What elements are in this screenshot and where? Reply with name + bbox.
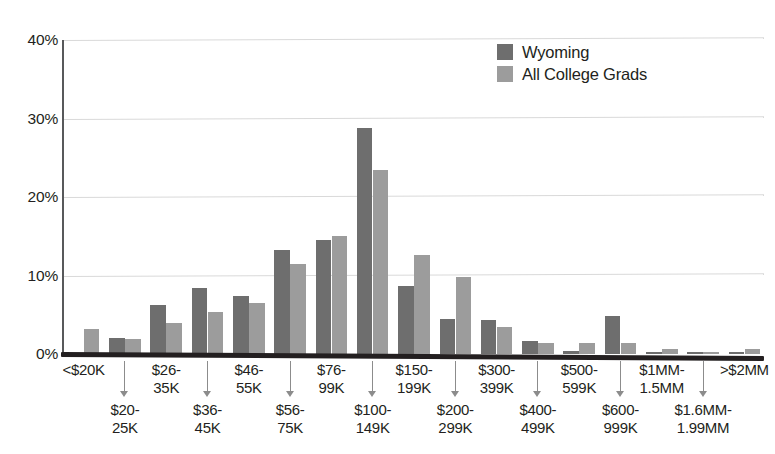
bar-all-college-grads	[414, 255, 430, 354]
bar-group	[646, 40, 678, 354]
bar-all-college-grads	[497, 327, 513, 354]
bar-all-college-grads	[703, 352, 719, 354]
y-axis-line	[62, 40, 64, 355]
bar-group	[729, 40, 761, 354]
y-axis-tick-label: 10%	[2, 268, 58, 284]
x-axis-category-label: $600- 999K	[573, 401, 667, 436]
bar-wyoming	[150, 305, 166, 354]
bar-group	[605, 40, 637, 354]
bar-group	[357, 40, 389, 354]
bar-all-college-grads	[621, 343, 637, 354]
bar-group	[233, 40, 265, 354]
bar-all-college-grads	[166, 323, 182, 354]
x-axis-category-label: $100- 149K	[326, 401, 420, 436]
y-axis-tick-label: 40%	[2, 32, 58, 48]
x-axis-category-label: $26- 35K	[119, 361, 213, 396]
x-axis-category-label: $150- 199K	[367, 361, 461, 396]
bar-group	[274, 40, 306, 354]
bar-wyoming	[398, 286, 414, 354]
bar-group	[687, 40, 719, 354]
bar-all-college-grads	[208, 312, 224, 354]
plot-area	[62, 40, 764, 354]
bar-wyoming	[233, 296, 249, 354]
bar-wyoming	[192, 288, 208, 354]
bar-group	[398, 40, 430, 354]
bar-wyoming	[357, 128, 373, 354]
bar-group	[150, 40, 182, 354]
y-axis-tick-label: 30%	[2, 111, 58, 127]
legend-swatch-icon	[497, 66, 513, 82]
bar-wyoming	[646, 352, 662, 354]
bar-group	[192, 40, 224, 354]
bar-all-college-grads	[456, 277, 472, 354]
legend-swatch-icon	[497, 44, 513, 60]
bar-group	[440, 40, 472, 354]
x-axis-category-label: $400- 499K	[491, 401, 585, 436]
bar-group	[522, 40, 554, 354]
bar-all-college-grads	[745, 349, 761, 354]
bar-all-college-grads	[579, 343, 595, 354]
bar-all-college-grads	[290, 264, 306, 354]
bar-group	[316, 40, 348, 354]
legend-item: All College Grads	[497, 66, 647, 83]
bar-group	[563, 40, 595, 354]
bar-wyoming	[316, 240, 332, 354]
x-axis-category-label: $1MM- 1.5MM	[615, 361, 709, 396]
x-axis-category-labels: <$20K$20- 25K$26- 35K$36- 45K$46- 55K$56…	[0, 357, 775, 454]
x-axis-category-label: $36- 45K	[161, 401, 255, 436]
bar-all-college-grads	[84, 329, 100, 354]
bar-wyoming	[563, 351, 579, 354]
bar-wyoming	[729, 352, 745, 354]
legend-label: Wyoming	[522, 44, 589, 61]
x-axis-category-label: $46- 55K	[202, 361, 296, 396]
bar-chart: 40%30%20%10%0% <$20K$20- 25K$26- 35K$36-…	[0, 0, 775, 454]
bar-series-container	[62, 40, 764, 354]
bar-wyoming	[605, 316, 621, 354]
bar-all-college-grads	[249, 303, 265, 354]
bar-wyoming	[522, 341, 538, 354]
bar-all-college-grads	[538, 343, 554, 354]
x-axis-category-label: $20- 25K	[78, 401, 172, 436]
bar-all-college-grads	[332, 236, 348, 354]
x-axis-category-label: >$2MM	[697, 361, 775, 379]
bar-all-college-grads	[373, 170, 389, 354]
legend-label: All College Grads	[522, 66, 647, 83]
bar-all-college-grads	[662, 349, 678, 354]
bar-group	[481, 40, 513, 354]
x-axis-category-label: $76- 99K	[284, 361, 378, 396]
x-axis-category-label: $300- 399K	[450, 361, 544, 396]
x-axis-category-label: $500- 599K	[532, 361, 626, 396]
legend-item: Wyoming	[497, 44, 647, 61]
y-axis-tick-label: 20%	[2, 189, 58, 205]
x-axis-category-label: $1.6MM- 1.99MM	[656, 401, 750, 436]
x-axis-category-label: $56- 75K	[243, 401, 337, 436]
bar-wyoming	[687, 352, 703, 354]
bar-wyoming	[440, 319, 456, 354]
bar-group	[109, 40, 141, 354]
chart-legend: WyomingAll College Grads	[497, 44, 647, 82]
bar-group	[68, 40, 100, 354]
bar-wyoming	[481, 320, 497, 354]
x-axis-category-label: <$20K	[37, 361, 131, 379]
bar-wyoming	[274, 250, 290, 354]
x-axis-category-label: $200- 299K	[408, 401, 502, 436]
